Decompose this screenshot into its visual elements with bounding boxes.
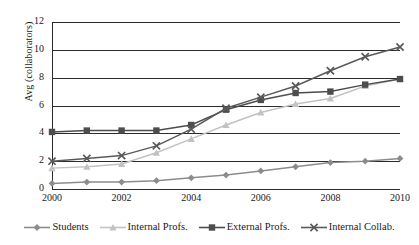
legend-label: External Profs. <box>227 222 290 233</box>
data-point <box>188 174 195 181</box>
chart-legend: StudentsInternal Profs.External Profs.In… <box>0 222 419 233</box>
data-point <box>292 163 299 170</box>
legend-marker-cross-icon <box>301 222 327 233</box>
legend-marker-square-icon <box>199 222 225 233</box>
legend-item[interactable]: External Profs. <box>199 222 290 233</box>
data-point <box>397 155 404 162</box>
series-students <box>49 155 404 187</box>
data-point <box>153 127 159 133</box>
series-internal-collab <box>48 43 403 164</box>
legend-item[interactable]: Internal Profs. <box>100 222 188 233</box>
data-point <box>327 159 334 166</box>
data-point <box>118 127 124 133</box>
legend-marker-diamond-icon <box>24 222 50 233</box>
data-point <box>118 179 125 186</box>
data-point <box>257 168 264 175</box>
legend-item[interactable]: Internal Collab. <box>301 222 395 233</box>
data-point <box>292 82 299 89</box>
chart-container: Avg (collaborators) 024681012 2000200220… <box>0 0 419 245</box>
data-point <box>223 172 230 179</box>
data-point <box>362 81 368 87</box>
data-point <box>153 177 160 184</box>
data-point <box>362 158 369 165</box>
data-point <box>397 76 403 82</box>
data-point <box>84 127 90 133</box>
data-point <box>83 179 90 186</box>
series-line <box>52 47 400 161</box>
series-line <box>52 158 400 183</box>
data-point <box>49 129 55 135</box>
data-point <box>292 90 298 96</box>
legend-item[interactable]: Students <box>24 222 88 233</box>
data-point <box>327 88 333 94</box>
legend-label: Internal Profs. <box>128 222 188 233</box>
data-point <box>49 180 56 187</box>
legend-marker-triangle-icon <box>100 222 126 233</box>
legend-label: Internal Collab. <box>329 222 395 233</box>
legend-label: Students <box>52 222 88 233</box>
data-point <box>327 67 334 74</box>
series-layer <box>0 0 419 245</box>
